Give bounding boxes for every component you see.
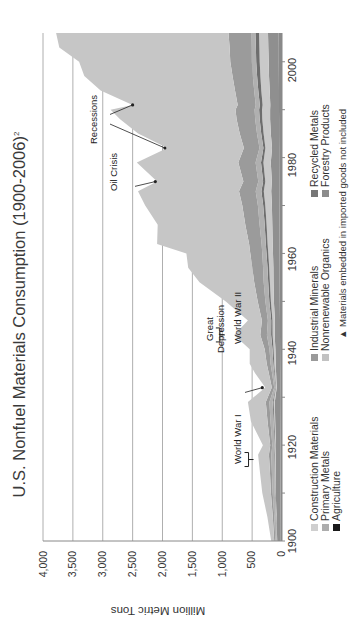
- legend-swatch: [322, 524, 329, 531]
- annotation-great-depression: GreatDepression: [204, 299, 226, 359]
- y-tick: 2,000: [156, 551, 168, 591]
- legend-item: Agriculture: [331, 417, 342, 531]
- legend-swatch: [322, 190, 329, 197]
- legend-column-3: Recycled Metals Forestry Products: [309, 104, 331, 197]
- x-tick: 1960: [286, 239, 298, 279]
- arrow-head: [163, 146, 166, 149]
- arrow-head: [261, 386, 264, 389]
- annotation-world-war-2: World War II: [232, 292, 243, 344]
- legend-column-1: Construction Materials Primary Metals Ag…: [309, 417, 342, 531]
- x-tick: 1920: [286, 427, 298, 467]
- y-tick: 3,000: [96, 551, 108, 591]
- legend-swatch: [311, 354, 318, 361]
- y-tick: 2,500: [126, 551, 138, 591]
- y-tick: 3,500: [66, 551, 78, 591]
- annotation-world-war-1: World War I: [232, 414, 243, 464]
- annotation-oil-crisis: Oil Crisis: [108, 153, 119, 191]
- x-tick: 1900: [286, 521, 298, 561]
- arrow-head: [131, 103, 134, 106]
- legend-swatch: [311, 190, 318, 197]
- legend-item: Nonrenewable Organics: [320, 238, 331, 361]
- annotation-arrow: [245, 388, 262, 393]
- y-axis-label: Million Metric Tons: [78, 605, 238, 617]
- y-tick: 1,500: [186, 551, 198, 591]
- y-tick: 500: [245, 551, 257, 591]
- legend-swatch: [333, 524, 340, 531]
- legend-column-2: Industrial Minerals Nonrenewable Organic…: [309, 238, 331, 361]
- y-tick: 1,000: [216, 551, 228, 591]
- legend-swatch: [322, 354, 329, 361]
- legend-item: Forestry Products: [320, 104, 331, 197]
- x-tick: 1980: [286, 145, 298, 185]
- annotation-recessions: Recessions: [88, 95, 99, 144]
- arrow-head: [154, 180, 157, 183]
- x-tick: 1940: [286, 333, 298, 373]
- footnote: ▲ Materials embedded in imported goods n…: [337, 109, 348, 339]
- legend-swatch: [311, 524, 318, 531]
- rotated-chart-frame: U.S. Nonfuel Materials Consumption (1900…: [0, 0, 364, 629]
- y-tick: 4,000: [37, 551, 49, 591]
- x-tick: 2000: [286, 50, 298, 90]
